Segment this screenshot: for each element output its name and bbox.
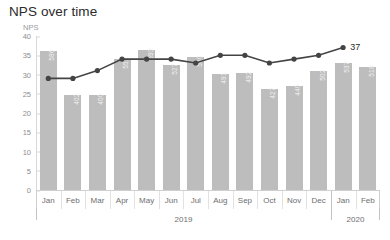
chart-title: NPS over time [9,4,97,19]
bar-value-label: 593 [147,48,154,59]
x-tick-label: Aug [208,191,233,209]
x-tick-label: Feb [61,191,86,209]
x-tick-label: Jun [159,191,184,209]
y-tick-30: 30 [23,70,36,79]
x-tick-label: Nov [282,191,307,209]
x-group-label: 2019 [36,209,331,229]
bar-cell[interactable]: 502 [306,36,331,190]
bar[interactable]: 593 [138,50,155,190]
bar-value-label: 551 [122,58,129,69]
bar[interactable]: 586 [40,51,57,190]
x-tick-label: Mar [85,191,110,209]
bar[interactable]: 402 [64,95,81,190]
bar-cell[interactable]: 491 [208,36,233,190]
x-tick-label: Feb [356,191,381,209]
y-tick-40: 40 [23,32,36,41]
y-tick-5: 5 [27,166,36,175]
bar-value-label: 537 [343,61,350,72]
x-axis-end-tick [379,191,380,209]
bar[interactable]: 502 [310,71,327,190]
x-axis-year-labels: 20192020 [36,209,380,229]
bar-value-label: 491 [220,72,227,83]
y-tick-25: 25 [23,89,36,98]
bar-value-label: 502 [319,69,326,80]
bar-value-label: 402 [73,93,80,104]
bar-value-label: 492 [245,72,252,83]
bar-value-label: 560 [196,56,203,67]
bar[interactable]: 427 [261,89,278,190]
bar-cell[interactable]: 440 [282,36,307,190]
x-tick-label: Jan [331,191,356,209]
bar-value-label: 400 [97,94,104,105]
bar-cell[interactable]: 492 [233,36,258,190]
bar[interactable]: 492 [236,73,253,190]
bar-cell[interactable]: 402 [61,36,86,190]
bar[interactable]: 400 [89,95,106,190]
bar[interactable]: 551 [114,59,131,190]
x-group-label: 2020 [331,209,380,229]
bar[interactable]: 518 [359,67,376,190]
bar-cell[interactable]: 518 [356,36,381,190]
x-axis-month-labels: JanFebMarAprMayJunJulAugSepOctNovDecJanF… [36,191,380,209]
bar-value-label: 440 [294,84,301,95]
bar-value-label: 586 [48,49,55,60]
bar-cell[interactable]: 537 [331,36,356,190]
bar[interactable]: 491 [212,74,229,190]
y-tick-10: 10 [23,147,36,156]
bar[interactable]: 440 [286,86,303,190]
plot-area: 0510152025303540 58640240055159352756049… [36,36,380,190]
x-tick-label: May [134,191,159,209]
bar-cell[interactable]: 551 [110,36,135,190]
bar[interactable]: 537 [335,63,352,190]
bar-cell[interactable]: 560 [183,36,208,190]
bar-value-label: 427 [269,87,276,98]
line-end-value-label: 37 [350,42,360,52]
bar-value-label: 527 [171,63,178,74]
bar-cell[interactable]: 593 [134,36,159,190]
x-tick-label: Apr [110,191,135,209]
chart-root: NPS over time NPS 0510152025303540 58640… [0,0,390,240]
x-tick-label: Dec [306,191,331,209]
bar-value-label: 518 [368,66,375,77]
x-group-end-tick [379,208,380,220]
x-tick-label: Oct [257,191,282,209]
x-tick-label: Sep [233,191,258,209]
bar-series: 5864024005515935275604914924274405025375… [36,36,380,190]
y-tick-35: 35 [23,51,36,60]
x-tick-label: Jul [183,191,208,209]
bar-cell[interactable]: 427 [257,36,282,190]
y-tick-20: 20 [23,109,36,118]
bar-cell[interactable]: 527 [159,36,184,190]
bar[interactable]: 560 [187,57,204,190]
y-tick-15: 15 [23,128,36,137]
bar-cell[interactable]: 400 [85,36,110,190]
y-tick-0: 0 [27,186,36,195]
bar-cell[interactable]: 586 [36,36,61,190]
x-tick-label: Jan [36,191,61,209]
bar[interactable]: 527 [163,65,180,190]
